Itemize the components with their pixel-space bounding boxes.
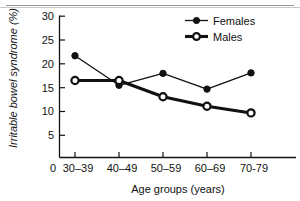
chart-legend: Females Males: [185, 15, 256, 43]
data-point-females-50–59: [160, 70, 166, 76]
x-tick-label-40-49: 40–49: [107, 162, 138, 174]
y-tick-label-20: 20: [42, 58, 54, 70]
data-point-males-50–59: [159, 93, 166, 100]
legend-entry-males: Males: [185, 31, 243, 43]
x-tick-label-50-59: 50–59: [151, 162, 182, 174]
data-point-females-70-79: [248, 70, 254, 76]
data-point-males-70-79: [247, 109, 254, 116]
y-tick-label-30: 30: [42, 10, 54, 22]
line-chart: Irritable bowel syndrome (%) 30 25 20 15…: [0, 0, 300, 201]
y-tick-label-25: 25: [42, 34, 54, 46]
legend-marker-open-circle-icon: [193, 33, 200, 40]
legend-label-males: Males: [213, 31, 243, 43]
y-tick-label-15: 15: [42, 82, 54, 94]
y-tick-label-10: 10: [42, 105, 54, 117]
x-tick-label-70-79: 70-79: [240, 162, 268, 174]
legend-label-females: Females: [213, 15, 256, 27]
scan-artifact-rule-secondary: [0, 7, 300, 8]
x-tick-label-30-39: 30–39: [63, 162, 94, 174]
data-point-males-40–49: [115, 77, 122, 84]
scan-artifact-rule: [6, 5, 294, 6]
y-axis-title: Irritable bowel syndrome (%): [7, 8, 19, 148]
x-axis-title: Age groups (years): [131, 183, 225, 195]
data-point-females-60–69: [204, 86, 210, 92]
series-males-group: [71, 77, 254, 117]
y-tick-label-5: 5: [48, 129, 54, 141]
chart-figure: Irritable bowel syndrome (%) 30 25 20 15…: [0, 0, 300, 201]
series-females-group: [72, 53, 254, 93]
legend-entry-females: Females: [185, 15, 256, 27]
data-point-males-30–39: [71, 77, 78, 84]
data-point-females-30–39: [72, 53, 78, 59]
data-point-males-60–69: [203, 103, 210, 110]
legend-marker-filled-circle-icon: [193, 17, 199, 23]
x-tick-label-60-69: 60–69: [195, 162, 226, 174]
x-origin-label: 0: [50, 162, 56, 174]
